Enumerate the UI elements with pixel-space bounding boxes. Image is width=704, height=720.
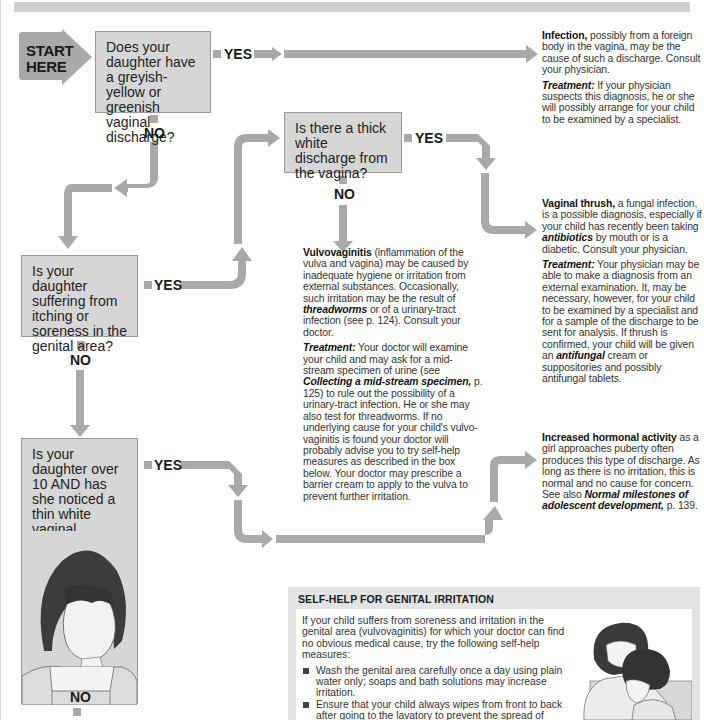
self-help-item-text: Ensure that your child always wipes from…	[316, 699, 562, 720]
square-bullet-icon	[303, 668, 309, 674]
link-collecting-mid-stream-specimen: Collecting a mid-stream specimen,	[303, 376, 471, 387]
self-help-item: Ensure that your child always wipes from…	[302, 699, 572, 720]
self-help-title: SELF-HELP FOR GENITAL IRRITATION	[298, 593, 494, 605]
treatment-text: Your physician may be able to make a dia…	[542, 259, 699, 361]
start-here-marker: START HERE	[20, 30, 92, 82]
question-box-over-10-thin-discharge: Is your daughter over 10 AND has she not…	[21, 438, 138, 704]
outcome-body: p. 139.	[664, 500, 698, 511]
q1-no-label: NO	[144, 125, 165, 141]
outcome-vulvovaginitis: Vulvovaginitis (inflammation of the vulv…	[303, 247, 483, 506]
self-help-intro: If your child suffers from soreness and …	[302, 615, 572, 661]
outcome-title: Infection,	[542, 30, 587, 41]
square-bullet-icon	[303, 702, 309, 708]
q3-no-label: NO	[70, 352, 91, 368]
term-antifungal: antifungal	[556, 350, 605, 361]
term-antibiotics: antibiotics	[542, 232, 593, 243]
q4-no-label: NO	[70, 689, 91, 705]
start-label-line1: START	[26, 43, 92, 59]
treatment-label: Treatment:	[542, 259, 595, 270]
treatment-text: p. 125) to rule out the possibility of a…	[303, 376, 482, 501]
outcome-hormonal-activity: Increased hormonal activity as a girl ap…	[542, 432, 704, 516]
outcome-title: Increased hormonal activity	[542, 432, 677, 443]
start-label-line2: HERE	[26, 59, 92, 75]
question-box-itching-soreness: Is your daughter suffering from itching …	[21, 255, 138, 337]
q4-yes-label: YES	[154, 457, 182, 473]
term-threadworms: threadworms	[303, 304, 367, 315]
question-text: Is there a thick white discharge from th…	[295, 120, 388, 181]
question-box-greyish-discharge: Does your daughter have a greyish-yellow…	[95, 31, 211, 113]
self-help-content: If your child suffers from soreness and …	[296, 609, 692, 720]
treatment-label: Treatment:	[542, 80, 595, 91]
outcome-title: Vaginal thrush,	[542, 198, 615, 209]
outcome-infection: Infection, possibly from a foreign body …	[542, 30, 702, 129]
self-help-item: Wash the genital area carefully once a d…	[302, 665, 572, 699]
self-help-item-text: Wash the genital area carefully once a d…	[316, 665, 562, 699]
self-help-list: Wash the genital area carefully once a d…	[302, 665, 572, 720]
q2-yes-label: YES	[415, 130, 443, 146]
mother-hugging-child-illustration	[574, 619, 692, 720]
q2-no-label: NO	[334, 186, 355, 202]
self-help-panel: SELF-HELP FOR GENITAL IRRITATION If your…	[288, 587, 700, 720]
treatment-label: Treatment:	[303, 342, 356, 353]
girl-looking-down-illustration	[22, 531, 137, 705]
outcome-vaginal-thrush: Vaginal thrush, a fungal infection, is a…	[542, 198, 704, 389]
q3-yes-label: YES	[154, 277, 182, 293]
q1-yes-label: YES	[224, 46, 252, 62]
question-text: Is your daughter suffering from itching …	[32, 263, 127, 354]
outcome-title: Vulvovaginitis	[303, 247, 372, 258]
question-box-thick-white-discharge: Is there a thick white discharge from th…	[284, 112, 402, 173]
